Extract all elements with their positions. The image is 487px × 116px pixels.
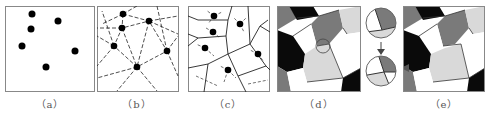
inset-before [362,6,400,46]
panel-e [403,6,485,92]
panel-a [5,6,95,92]
label-d: （d） [289,96,349,111]
junction-inset [362,6,400,92]
panel-d [277,6,361,92]
label-e: （e） [414,96,474,111]
label-a: （a） [20,96,80,111]
down-arrow-icon [377,49,385,55]
inset-after [362,54,400,92]
panel-b [97,6,179,92]
panel-c [188,6,270,92]
label-b: （b） [107,96,167,111]
label-c: （c） [198,96,258,111]
